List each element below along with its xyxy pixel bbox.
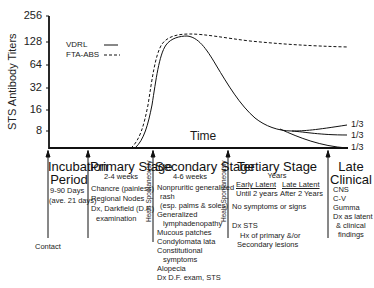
early-latent-label: Early Latent bbox=[236, 181, 276, 189]
late-line: & clinical bbox=[336, 222, 366, 230]
late-line: CNS bbox=[333, 186, 349, 194]
heals-spontaneously-primary: Heals Spontaneously bbox=[145, 161, 152, 222]
primary-line: examination bbox=[96, 215, 136, 223]
y-tick-8: 8 bbox=[12, 125, 42, 136]
tertiary-line: Hx of primary &/or bbox=[240, 232, 300, 240]
y-tick-128: 128 bbox=[12, 36, 42, 47]
contact-label: Contact bbox=[35, 243, 61, 251]
primary-line: Regional Nodes bbox=[91, 195, 144, 203]
heals-spontaneously-secondary: Heals Spontaneously bbox=[220, 161, 227, 222]
outcome-fraction-1: 1/3 bbox=[351, 120, 364, 129]
outcome-fraction-2: 1/3 bbox=[351, 131, 364, 140]
late-line: findings bbox=[338, 231, 364, 239]
late-line: Gumma bbox=[333, 204, 360, 212]
secondary-line: lymphadenopathy bbox=[163, 220, 222, 228]
primary-duration: 2-4 weeks bbox=[90, 173, 152, 181]
secondary-line: symptoms bbox=[163, 256, 197, 264]
secondary-line: Mucous patches bbox=[157, 229, 212, 237]
incubation-title-2: Period bbox=[48, 173, 90, 186]
late-latent-time: After 2 Years bbox=[280, 190, 323, 198]
y-tick-64: 64 bbox=[12, 59, 42, 70]
tertiary-line: Dx STS bbox=[232, 222, 258, 230]
y-tick-16: 16 bbox=[12, 104, 42, 115]
late-latent-label: Late Latent bbox=[282, 181, 320, 189]
early-latent-time: Until 2 years bbox=[236, 190, 278, 198]
vdrl-outcome-rise bbox=[292, 125, 347, 131]
legend-vdrl-label: VDRL bbox=[66, 41, 87, 49]
secondary-line: Constitutional bbox=[157, 247, 202, 255]
vdrl-outcome-stable bbox=[292, 131, 347, 135]
secondary-line: Dx D.F. exam, STS bbox=[157, 274, 221, 282]
tertiary-line: No symptoms or signs bbox=[232, 203, 306, 211]
secondary-line: Condylomata lata bbox=[157, 238, 215, 246]
legend-fta-label: FTA-ABS bbox=[66, 51, 99, 59]
secondary-line: (esp. palms & soles) bbox=[160, 202, 228, 210]
incubation-line: (ave. 21 days) bbox=[49, 197, 97, 205]
incubation-line: 9-90 Days bbox=[50, 187, 84, 195]
tertiary-line: Secondary lesions bbox=[237, 241, 298, 249]
late-line: Dx as latent bbox=[333, 213, 373, 221]
secondary-line: Generalized bbox=[157, 211, 197, 219]
secondary-duration: 4-6 weeks bbox=[155, 173, 225, 181]
y-tick-32: 32 bbox=[12, 82, 42, 93]
tertiary-duration: Years bbox=[232, 172, 322, 180]
secondary-line: rash bbox=[160, 193, 175, 201]
y-tick-256: 256 bbox=[12, 10, 42, 21]
late-line: C-V bbox=[333, 195, 346, 203]
vdrl-outcome-fall bbox=[280, 129, 347, 148]
secondary-line: Alopecia bbox=[157, 265, 186, 273]
x-axis-label: Time bbox=[190, 130, 216, 142]
fta-abs-curve bbox=[131, 34, 348, 148]
outcome-fraction-3: 1/3 bbox=[351, 143, 364, 152]
